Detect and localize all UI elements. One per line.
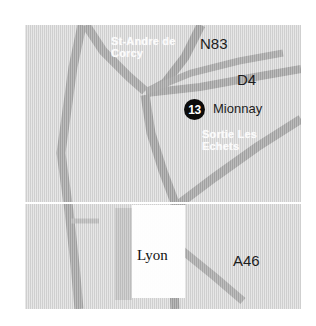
road-west-main xyxy=(61,25,82,309)
map-panel[interactable]: St-Andre de Corcy N83 D4 13 Mionnay Sort… xyxy=(25,25,301,309)
road-north-diagonal xyxy=(86,25,145,91)
urban-shadow-strip xyxy=(115,208,132,300)
road-network xyxy=(25,25,301,309)
map-root: St-Andre de Corcy N83 D4 13 Mionnay Sort… xyxy=(0,0,316,326)
exit-badge-13[interactable]: 13 xyxy=(184,99,205,120)
urban-area-lyon xyxy=(132,205,185,298)
